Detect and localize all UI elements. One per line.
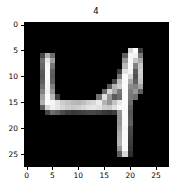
y-tick-label: 15 (2, 98, 18, 107)
x-tick-label: 25 (146, 171, 166, 180)
x-tick-label: 10 (68, 171, 88, 180)
y-tick-label: 5 (2, 46, 18, 55)
y-tick-mark (21, 50, 24, 51)
x-tick-label: 20 (120, 171, 140, 180)
page-title: 4 (24, 6, 168, 16)
y-tick-label: 10 (2, 72, 18, 81)
y-tick-mark (21, 25, 24, 26)
x-tick-mark (27, 167, 28, 170)
x-tick-mark (104, 167, 105, 170)
x-tick-mark (52, 167, 53, 170)
x-tick-label: 0 (17, 171, 37, 180)
x-tick-mark (130, 167, 131, 170)
pixel-cell (164, 162, 169, 167)
y-tick-label: 25 (2, 150, 18, 159)
y-tick-mark (21, 128, 24, 129)
y-tick-label: 0 (2, 20, 18, 29)
x-tick-label: 5 (42, 171, 62, 180)
y-tick-label: 20 (2, 124, 18, 133)
x-tick-mark (156, 167, 157, 170)
y-tick-mark (21, 76, 24, 77)
matplotlib-figure: 4 0510152025 0510152025 (0, 0, 178, 194)
y-tick-mark (21, 154, 24, 155)
digit-image-axes (24, 22, 169, 167)
digit-pixel-grid (24, 22, 169, 167)
y-tick-mark (21, 102, 24, 103)
x-tick-mark (78, 167, 79, 170)
x-tick-label: 15 (94, 171, 114, 180)
